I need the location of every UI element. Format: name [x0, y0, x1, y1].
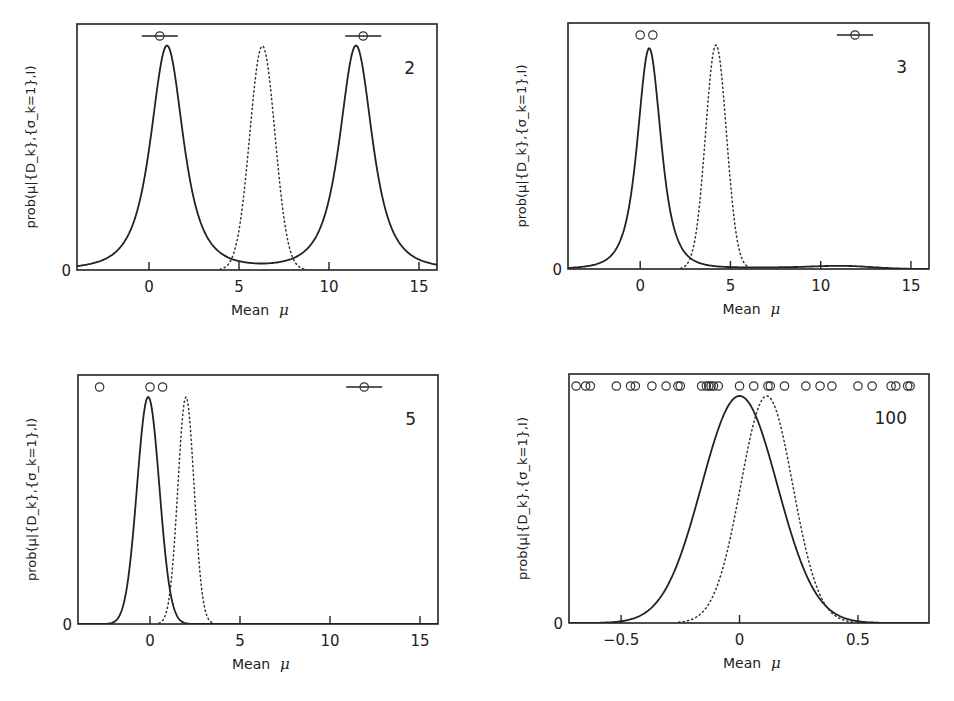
sample-size-label: 5 — [405, 409, 416, 429]
x-tick-label: 10 — [811, 277, 830, 295]
x-tick-label: 0 — [735, 631, 745, 649]
x-axis-label: Mean — [723, 655, 761, 671]
data-point — [649, 31, 657, 39]
y-zero-label: 0 — [61, 262, 71, 280]
data-point — [648, 382, 656, 390]
posterior-curve — [569, 396, 929, 623]
data-point — [828, 382, 836, 390]
data-point — [612, 382, 620, 390]
posterior-curve — [568, 48, 929, 269]
data-point — [146, 383, 154, 391]
x-tick-label: 0 — [144, 278, 154, 296]
data-point — [802, 382, 810, 390]
figure-canvas: 0510150Meanμprob(μ|{D_k},{σ_k=1},I)20510… — [0, 0, 954, 701]
x-tick-label: 5 — [726, 277, 736, 295]
x-tick-label: 0 — [145, 632, 155, 650]
x-tick-label: 15 — [409, 278, 428, 296]
posterior-curve — [78, 397, 438, 624]
data-point — [816, 382, 824, 390]
y-zero-label: 0 — [553, 615, 563, 633]
x-axis-symbol: μ — [279, 301, 289, 319]
gaussian-curve — [681, 45, 751, 268]
data-point — [158, 383, 166, 391]
x-axis-symbol: μ — [280, 655, 290, 673]
x-tick-label: 5 — [235, 632, 245, 650]
data-point — [780, 382, 788, 390]
sample-size-label: 2 — [404, 58, 415, 78]
x-tick-label: 0.5 — [846, 631, 870, 649]
data-point — [854, 382, 862, 390]
plot-frame — [78, 375, 438, 624]
y-axis-label: prob(μ|{D_k},{σ_k=1},I) — [24, 418, 39, 581]
y-zero-label: 0 — [62, 616, 72, 634]
x-tick-label: 10 — [320, 632, 339, 650]
x-tick-label: 5 — [234, 278, 244, 296]
gaussian-curve — [220, 46, 305, 269]
gaussian-curve — [159, 397, 213, 623]
x-axis-label: Mean — [232, 656, 270, 672]
data-point — [735, 382, 743, 390]
plot-panel-2: 0510150Meanμprob(μ|{D_k},{σ_k=1},I)3 — [514, 23, 929, 318]
y-axis-label: prob(μ|{D_k},{σ_k=1},I) — [514, 65, 529, 228]
x-tick-label: 10 — [319, 278, 338, 296]
x-tick-label: 15 — [410, 632, 429, 650]
x-tick-label: 15 — [901, 277, 920, 295]
x-axis-label: Mean — [723, 301, 761, 317]
x-tick-label: −0.5 — [603, 631, 639, 649]
sample-size-label: 3 — [896, 57, 907, 77]
data-point — [662, 382, 670, 390]
y-zero-label: 0 — [552, 261, 562, 279]
plot-panel-3: 0510150Meanμprob(μ|{D_k},{σ_k=1},I)5 — [24, 375, 438, 673]
gaussian-curve — [679, 396, 855, 622]
x-tick-label: 0 — [635, 277, 645, 295]
plot-frame — [568, 23, 929, 269]
y-axis-label: prob(μ|{D_k},{σ_k=1},I) — [23, 66, 38, 229]
x-axis-symbol: μ — [771, 654, 781, 672]
y-axis-label: prob(μ|{D_k},{σ_k=1},I) — [515, 417, 530, 580]
data-point — [572, 382, 580, 390]
posterior-curve — [77, 46, 437, 267]
data-point — [750, 382, 758, 390]
x-axis-symbol: μ — [771, 300, 781, 318]
x-axis-label: Mean — [231, 302, 269, 318]
data-point — [95, 383, 103, 391]
plot-panel-4: −0.500.50Meanμprob(μ|{D_k},{σ_k=1},I)100 — [515, 374, 929, 672]
plot-panel-1: 0510150Meanμprob(μ|{D_k},{σ_k=1},I)2 — [23, 24, 437, 319]
data-point — [636, 31, 644, 39]
data-point — [868, 382, 876, 390]
sample-size-label: 100 — [875, 408, 907, 428]
